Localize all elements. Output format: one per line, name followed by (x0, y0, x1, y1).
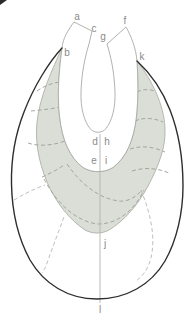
growth-ring (42, 217, 64, 273)
growth-line (14, 185, 45, 200)
label-d: d (92, 136, 98, 147)
corner-crop-mark (0, 0, 7, 5)
shell-growth-diagram: a b c d e f g h i j k l (0, 0, 192, 325)
label-l: l (99, 304, 101, 315)
label-e: e (91, 155, 97, 166)
label-g: g (100, 31, 106, 42)
growth-ring (136, 190, 153, 281)
inner-horseshoe-band (58, 22, 138, 172)
label-a: a (74, 11, 80, 22)
label-i: i (105, 155, 107, 166)
diagram-canvas: a b c d e f g h i j k l (0, 0, 192, 325)
label-c: c (92, 23, 97, 34)
label-h: h (104, 136, 110, 147)
label-j: j (103, 238, 106, 249)
label-k: k (140, 51, 146, 62)
label-f: f (124, 15, 127, 26)
label-b: b (64, 47, 70, 58)
